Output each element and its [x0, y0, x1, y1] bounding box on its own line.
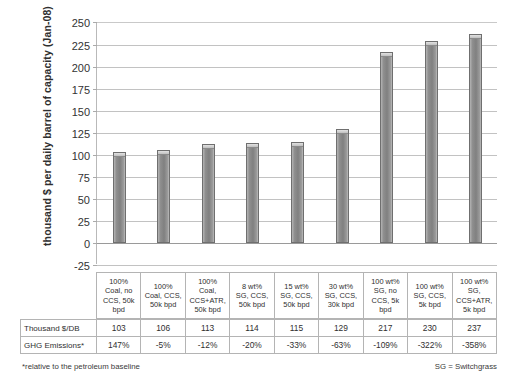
y-tick-mark [93, 265, 97, 266]
y-tick-label: 100 [72, 150, 90, 162]
bar-cap [292, 143, 303, 147]
bar[interactable] [380, 52, 393, 243]
category-label-text: 100 wt%SG, CCS,5k bpd [414, 282, 446, 310]
table-row-label: Thousand $/DB [21, 320, 97, 336]
y-axis-title: thousand $ per daily barrel of capacity … [41, 1, 53, 251]
category-label: 100%Coal, CCS,50k bpd [141, 273, 185, 318]
table-cell: -33% [275, 337, 319, 353]
table-cell: 113 [186, 320, 230, 336]
table-cell: 147% [97, 337, 141, 353]
table-cell: 106 [141, 320, 185, 336]
bar-slot [186, 23, 231, 264]
bar-cap [337, 130, 348, 134]
data-table: Thousand $/DB103106113114115129217230237… [20, 319, 497, 354]
category-label-band: 100%Coal, noCCS, 50kbpd100%Coal, CCS,50k… [96, 272, 497, 319]
bar-slot [364, 23, 409, 264]
bar-slot [453, 23, 498, 264]
category-label-text: 15 wt%SG, CCS,50k bpd [280, 282, 312, 310]
bar[interactable] [246, 143, 259, 243]
table-cell: -63% [319, 337, 363, 353]
y-tick-label: 250 [72, 17, 90, 29]
category-label: 15 wt%SG, CCS,50k bpd [275, 273, 319, 318]
table-cell: 217 [364, 320, 408, 336]
bar[interactable] [425, 41, 438, 243]
table-cell: 129 [319, 320, 363, 336]
bar-slot [320, 23, 365, 264]
y-tick-label: 50 [78, 194, 90, 206]
category-label-text: 30 wt%SG, CCS,30k bpd [325, 282, 357, 310]
table-row-cells: 103106113114115129217230237 [97, 320, 496, 336]
footnote-switchgrass: SG = Switchgrass [435, 362, 497, 371]
table-cell: -5% [141, 337, 185, 353]
table-cell: -109% [364, 337, 408, 353]
bar-series [97, 23, 497, 264]
y-tick-label: 125 [72, 128, 90, 140]
category-label-text: 100%Coal,CCS+ATR,50k bpd [189, 277, 225, 314]
category-label-text: 100 wt%SG, noCCS, 5kbpd [371, 277, 399, 314]
table-cell: 230 [408, 320, 452, 336]
bar[interactable] [336, 129, 349, 243]
bar-cap [247, 144, 258, 148]
table-row-cells: 147%-5%-12%-20%-33%-63%-109%-322%-358% [97, 337, 496, 353]
table-cell: 114 [230, 320, 274, 336]
category-label: 8 wt%SG, CCS,50k bpd [230, 273, 274, 318]
bar-cap [381, 53, 392, 57]
table-cell: -358% [453, 337, 496, 353]
bar-cap [203, 145, 214, 149]
table-cell: -12% [186, 337, 230, 353]
table-cell: -20% [230, 337, 274, 353]
table-cell: 237 [453, 320, 496, 336]
y-tick-label: 150 [72, 106, 90, 118]
table-cell: -322% [408, 337, 452, 353]
y-tick-label: 200 [72, 62, 90, 74]
bar-cap [158, 151, 169, 155]
category-label: 100%Coal, noCCS, 50kbpd [97, 273, 141, 318]
y-tick-label: 0 [84, 238, 90, 250]
category-label-text: 100%Coal, noCCS, 50kbpd [103, 277, 135, 314]
bar[interactable] [157, 150, 170, 243]
bar[interactable] [469, 34, 482, 243]
category-label: 100 wt%SG,CCS+ATR,5k bpd [453, 273, 496, 318]
plot-area: 2502252001751501251007550250-25 [96, 22, 497, 264]
bar-cap [426, 42, 437, 46]
category-label: 100 wt%SG, noCCS, 5kbpd [364, 273, 408, 318]
table-row: GHG Emissions*147%-5%-12%-20%-33%-63%-10… [21, 337, 496, 354]
category-label: 30 wt%SG, CCS,30k bpd [319, 273, 363, 318]
table-cell: 115 [275, 320, 319, 336]
footnote-baseline: *relative to the petroleum baseline [22, 362, 140, 371]
bar-cap [114, 153, 125, 157]
bar-slot [142, 23, 187, 264]
category-label: 100 wt%SG, CCS,5k bpd [408, 273, 452, 318]
y-tick-label: 25 [78, 216, 90, 228]
bar-slot [409, 23, 454, 264]
gridline: -25 [97, 265, 497, 266]
table-row: Thousand $/DB103106113114115129217230237 [21, 320, 496, 337]
chart-figure: thousand $ per daily barrel of capacity … [0, 0, 521, 387]
y-tick-label: 225 [72, 40, 90, 52]
category-label-text: 8 wt%SG, CCS,50k bpd [236, 282, 268, 310]
bar-cap [470, 35, 481, 39]
category-label-text: 100%Coal, CCS,50k bpd [145, 282, 182, 310]
y-tick-label: 75 [78, 172, 90, 184]
category-label: 100%Coal,CCS+ATR,50k bpd [186, 273, 230, 318]
y-tick-label: -25 [74, 260, 90, 272]
bar[interactable] [291, 142, 304, 243]
bar-slot [275, 23, 320, 264]
table-row-label: GHG Emissions* [21, 337, 97, 353]
bar-slot [231, 23, 276, 264]
category-label-text: 100 wt%SG,CCS+ATR,5k bpd [456, 277, 492, 314]
table-cell: 103 [97, 320, 141, 336]
bar-slot [97, 23, 142, 264]
y-tick-label: 175 [72, 84, 90, 96]
bar[interactable] [202, 144, 215, 243]
bar[interactable] [113, 152, 126, 243]
